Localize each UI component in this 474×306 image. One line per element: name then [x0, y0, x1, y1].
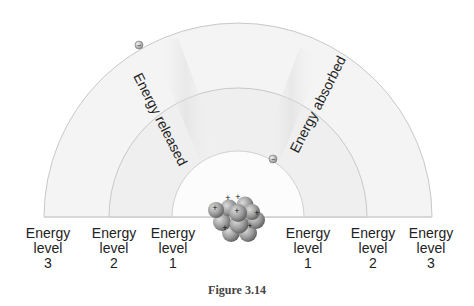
- proton-plus-icon: +: [247, 221, 252, 231]
- figure-caption: Figure 3.14: [0, 283, 474, 298]
- electron-inner: −: [269, 155, 277, 163]
- label-word: Energy: [84, 226, 144, 241]
- label-word: Energy: [278, 226, 338, 241]
- label-number: 3: [401, 256, 461, 271]
- energy-level-1-left-label: Energy level 1: [143, 226, 203, 271]
- proton-plus-icon: +: [254, 208, 259, 218]
- label-word: level: [278, 241, 338, 256]
- electron-minus-icon: −: [137, 42, 141, 49]
- proton-plus-icon: +: [222, 223, 227, 233]
- energy-level-3-left-label: Energy level 3: [18, 226, 78, 271]
- electron-minus-icon: −: [271, 156, 275, 163]
- label-word: Energy: [18, 226, 78, 241]
- proton-plus-icon: +: [225, 193, 230, 203]
- electron-outer: −: [135, 41, 143, 49]
- label-word: level: [401, 241, 461, 256]
- label-word: Energy: [343, 226, 403, 241]
- energy-level-3-right-label: Energy level 3: [401, 226, 461, 271]
- proton-plus-icon: +: [234, 206, 239, 216]
- label-number: 2: [343, 256, 403, 271]
- energy-level-2-right-label: Energy level 2: [343, 226, 403, 271]
- label-word: level: [343, 241, 403, 256]
- label-word: level: [143, 241, 203, 256]
- label-number: 1: [143, 256, 203, 271]
- label-word: Energy: [143, 226, 203, 241]
- proton-plus-icon: +: [212, 203, 217, 213]
- label-number: 1: [278, 256, 338, 271]
- energy-level-1-right-label: Energy level 1: [278, 226, 338, 271]
- label-number: 2: [84, 256, 144, 271]
- label-word: Energy: [401, 226, 461, 241]
- energy-level-2-left-label: Energy level 2: [84, 226, 144, 271]
- label-word: level: [84, 241, 144, 256]
- label-number: 3: [18, 256, 78, 271]
- proton-plus-icon: +: [235, 192, 240, 202]
- label-word: level: [18, 241, 78, 256]
